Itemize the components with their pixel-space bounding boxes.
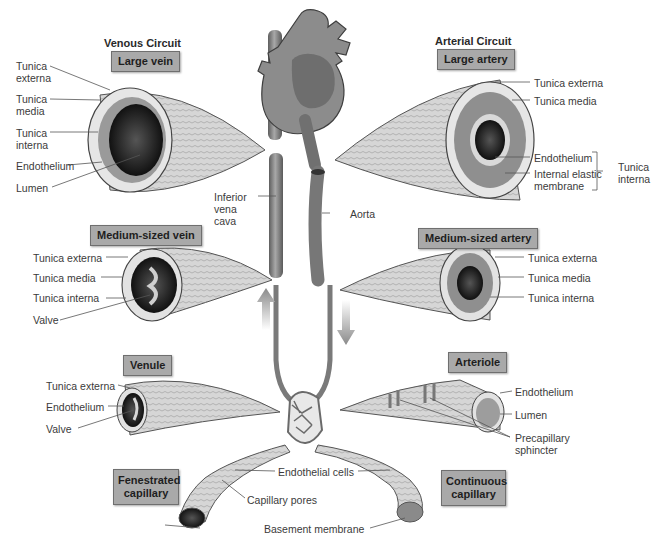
venule-label-endothelium: Endothelium [46,401,104,413]
capillary-pores-label: Capillary pores [247,494,317,506]
large-artery-illustration [335,80,534,200]
medium-vein-label-tunica-media: Tunica media [33,272,96,284]
medium-sized-vein-illustration [122,248,272,321]
aorta-label: Aorta [350,208,375,220]
fenestrated-capillary-illustration [179,445,290,528]
inferior-vena-cava-vessel [269,153,283,278]
continuous-capillary-illustration [315,445,423,522]
arteriole-label-precapillary-sphincter: Precapillary sphincter [515,432,577,456]
endothelial-cells-label: Endothelial cells [278,466,354,478]
large-artery-label-endothelium: Endothelium [534,152,592,164]
large-vein-illustration [88,88,265,192]
basement-membrane-label: Basement membrane [264,523,364,535]
medium-artery-label-tunica-media: Tunica media [528,272,591,284]
large-vein-label-tunica-interna: Tunica interna [16,127,56,151]
medium-vein-label-tunica-externa: Tunica externa [33,252,102,264]
medium-sized-artery-illustration [340,245,500,321]
large-vein-label-tunica-media: Tunica media [16,93,56,117]
venule-label-tunica-externa: Tunica externa [46,380,115,392]
large-artery-box: Large artery [437,49,515,70]
venule-illustration [117,381,280,435]
large-vein-label-tunica-externa: Tunica externa [16,60,56,84]
inferior-vena-cava-label: Inferior vena cava [214,191,258,227]
continuous-capillary-box: Continuous capillary [441,470,506,506]
medium-vein-box: Medium-sized vein [90,225,202,246]
medium-artery-box: Medium-sized artery [418,228,538,249]
arteriole-illustration [340,380,504,432]
medium-vein-label-valve: Valve [33,314,59,326]
large-vein-label-lumen: Lumen [16,182,48,194]
large-artery-label-tunica-externa: Tunica externa [534,77,603,89]
venous-circuit-heading: Venous Circuit [104,37,181,49]
up-arrow-icon [257,288,275,330]
arteriole-label-lumen: Lumen [515,409,547,421]
down-arrow-icon [337,300,355,345]
heart-icon [258,10,350,165]
arteriole-box: Arteriole [448,352,507,373]
venule-label-valve: Valve [46,423,72,435]
large-artery-label-tunica-media: Tunica media [534,95,597,107]
large-vein-box: Large vein [111,51,180,72]
large-artery-label-internal-elastic-membrane: Internal elastic membrane [534,168,604,192]
venule-box: Venule [123,355,172,376]
fenestrated-capillary-box: Fenestrated capillary [113,469,179,505]
medium-vein-label-tunica-interna: Tunica interna [33,292,99,304]
arterial-circuit-heading: Arterial Circuit [435,35,511,47]
large-artery-bracket-tunica-interna: Tunica interna [618,161,658,185]
aorta-vessel [315,172,318,280]
medium-artery-label-tunica-interna: Tunica interna [528,292,594,304]
large-vein-label-endothelium: Endothelium [16,160,74,172]
arteriole-label-endothelium: Endothelium [515,386,573,398]
medium-artery-label-tunica-externa: Tunica externa [528,252,597,264]
